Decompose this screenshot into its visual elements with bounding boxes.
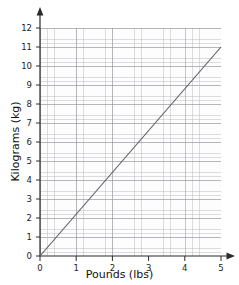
y-axis-title: Kilograms (kg) (9, 72, 22, 212)
y-tick-label-11: 11 (14, 42, 32, 52)
conversion-line-series (40, 47, 221, 256)
axes-and-series (0, 0, 239, 285)
y-tick-label-1: 1 (18, 232, 32, 242)
y-tick-label-0: 0 (18, 251, 32, 261)
y-tick-label-12: 12 (14, 23, 32, 33)
line-chart: 0 1 2 3 4 5 6 7 8 9 10 11 12 0 1 2 3 4 5… (0, 0, 239, 285)
y-axis-arrow-icon (37, 7, 44, 16)
x-tick-marks (40, 256, 221, 261)
y-tick-label-10: 10 (14, 61, 32, 71)
y-tick-label-2: 2 (18, 213, 32, 223)
x-axis-arrow-icon (227, 253, 236, 260)
x-axis-title: Pounds (lbs) (0, 268, 239, 281)
